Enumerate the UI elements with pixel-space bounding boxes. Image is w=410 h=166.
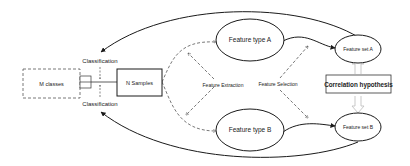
edge-type-a-to-set-a	[283, 37, 335, 48]
hollow-arrow-down	[352, 96, 364, 113]
classification-bottom-label: Classification	[82, 101, 117, 107]
feature-set-b-label: Feature set B	[343, 124, 374, 130]
edge-selection-up	[280, 46, 308, 78]
m-classes-label: M classes	[39, 81, 64, 87]
edge-selection-down	[280, 90, 308, 118]
feature-extraction-label: Feature Extraction	[203, 82, 244, 88]
classification-top-label: Classification	[82, 58, 117, 64]
diagram-canvas: M classes Classification Classification …	[0, 0, 410, 166]
edge-type-b-to-set-b	[283, 124, 335, 132]
n-samples-label: N Samples	[126, 80, 153, 86]
feature-selection-label: Feature Selection	[258, 81, 297, 87]
feature-type-b-label: Feature type B	[229, 126, 272, 134]
edge-samples-to-type-b	[162, 82, 216, 131]
edge-extraction-down	[186, 87, 214, 115]
edge-samples-to-type-a	[162, 42, 216, 82]
feature-set-a-label: Feature set A	[343, 46, 373, 52]
edge-extraction-up	[188, 53, 214, 79]
feature-type-a-label: Feature type A	[229, 36, 272, 44]
correlation-hypothesis-label: Correlation hypothesis	[324, 81, 393, 89]
